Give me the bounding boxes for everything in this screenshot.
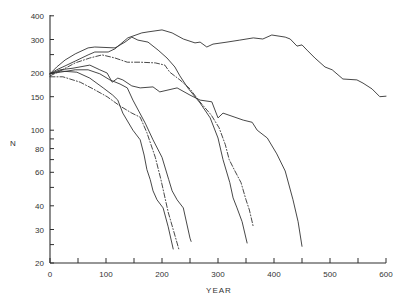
y-tick-label: 100 [31, 126, 45, 135]
x-tick-label: 400 [267, 270, 281, 279]
y-tick-label: 40 [35, 202, 44, 211]
x-tick-label: 500 [323, 270, 337, 279]
y-tick-label: 300 [31, 36, 45, 45]
x-tick-label: 100 [99, 270, 113, 279]
y-tick-label: 30 [35, 226, 44, 235]
x-tick-label: 600 [379, 270, 393, 279]
y-tick-label: 60 [35, 168, 44, 177]
chart-background [0, 0, 405, 301]
y-tick-label: 150 [31, 93, 45, 102]
y-tick-label: 80 [35, 145, 44, 154]
x-axis-title: YEAR [206, 286, 232, 295]
population-chart: 2030406080100150200300400 01002003004005… [0, 0, 405, 301]
y-tick-label: 400 [31, 12, 45, 21]
y-axis-title: N [10, 139, 17, 148]
x-tick-label: 300 [211, 270, 225, 279]
x-tick-label: 200 [155, 270, 169, 279]
x-tick-label: 0 [48, 270, 53, 279]
y-tick-label: 20 [35, 259, 44, 268]
y-tick-label: 200 [31, 69, 45, 78]
